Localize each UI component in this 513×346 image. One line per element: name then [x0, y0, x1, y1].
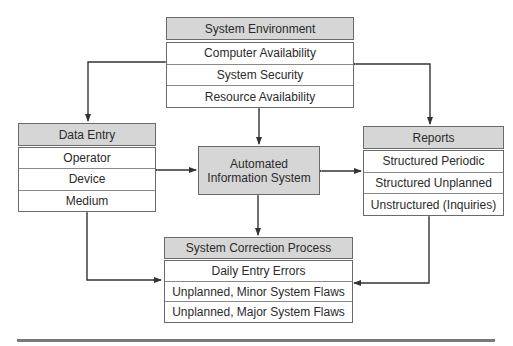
- list-item: Unplanned, Minor System Flaws: [165, 282, 352, 303]
- reports-list: Structured Periodic Structured Unplanned…: [363, 150, 504, 216]
- list-item: Structured Unplanned: [364, 173, 503, 195]
- list-item: Daily Entry Errors: [165, 261, 352, 282]
- list-item: Medium: [19, 191, 155, 211]
- system-environment-header: System Environment: [166, 17, 354, 40]
- list-item: System Security: [167, 65, 353, 87]
- system-correction-list: Daily Entry Errors Unplanned, Minor Syst…: [164, 260, 353, 323]
- list-item: Unstructured (Inquiries): [364, 194, 503, 215]
- list-item: Unplanned, Major System Flaws: [165, 302, 352, 322]
- system-correction-header: System Correction Process: [164, 237, 353, 259]
- automated-information-system-box: Automated Information System: [198, 146, 320, 195]
- list-item: Device: [19, 169, 155, 190]
- list-item: Structured Periodic: [364, 151, 503, 173]
- list-item: Computer Availability: [167, 43, 353, 65]
- list-item: Operator: [19, 148, 155, 169]
- data-entry-list: Operator Device Medium: [18, 147, 156, 212]
- center-title-line1: Automated: [230, 157, 288, 171]
- reports-header: Reports: [363, 126, 504, 149]
- data-entry-header: Data Entry: [18, 123, 156, 146]
- system-environment-list: Computer Availability System Security Re…: [166, 42, 354, 108]
- bottom-divider: [17, 339, 495, 342]
- center-title-line2: Information System: [207, 171, 310, 185]
- list-item: Resource Availability: [167, 86, 353, 107]
